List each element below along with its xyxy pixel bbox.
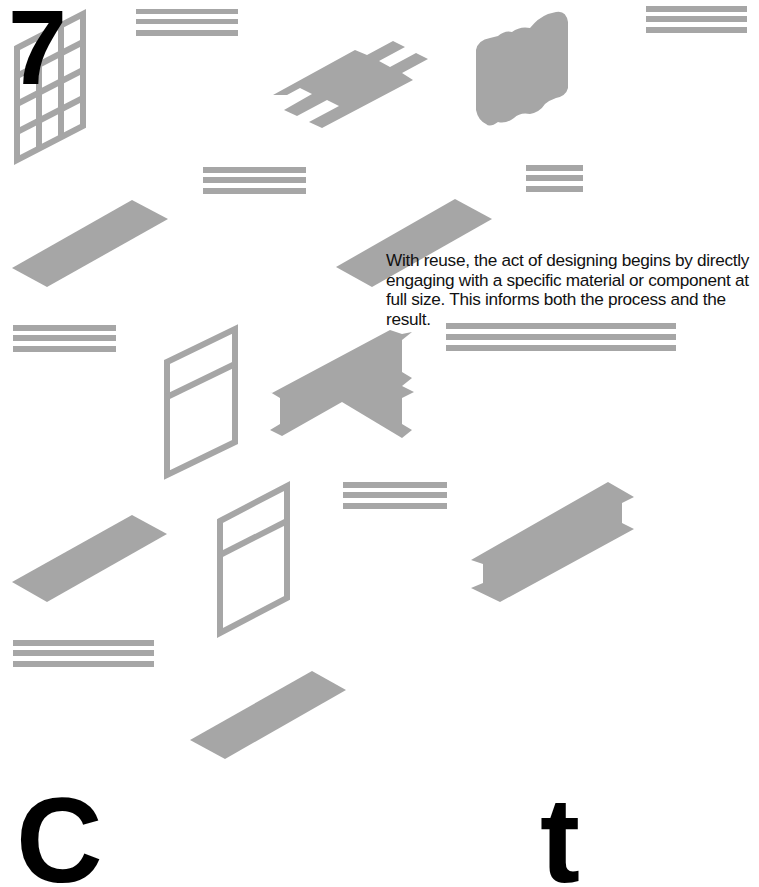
plank-4 xyxy=(190,671,346,759)
stripe-group-center xyxy=(343,482,447,509)
heading-glyph-1: C xyxy=(16,780,103,887)
t-beam xyxy=(270,330,414,438)
stripe-group-mid-left xyxy=(203,167,306,194)
stripe-group-top-right xyxy=(646,6,747,33)
stripe-group-mid-right xyxy=(526,165,583,192)
caption-text: With reuse, the act of designing begins … xyxy=(386,251,758,329)
window-frame-2 xyxy=(220,486,287,633)
corrugated-block xyxy=(476,12,568,126)
plank-3 xyxy=(12,515,167,602)
stripe-group-lower-left xyxy=(13,640,154,667)
bottom-heading-partial: C t xyxy=(10,780,759,840)
stripe-group-left xyxy=(13,325,116,352)
plank-1 xyxy=(12,200,168,287)
stripe-group-top-center xyxy=(136,9,238,36)
page-number: 7 xyxy=(8,0,63,100)
plate-with-tabs xyxy=(273,41,428,128)
window-frame-1 xyxy=(167,329,235,475)
heading-glyph-2: t xyxy=(540,780,580,887)
i-beam xyxy=(471,482,634,602)
